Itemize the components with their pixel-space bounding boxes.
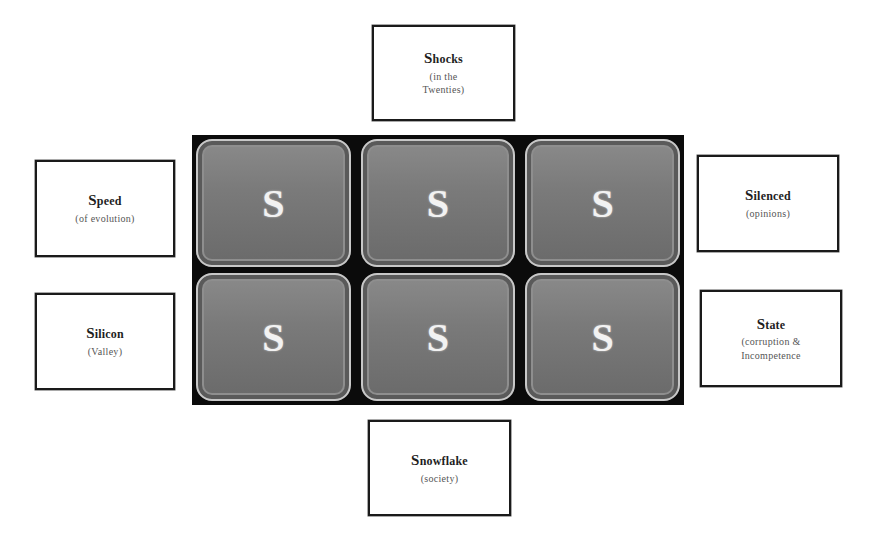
s-tile-3[interactable]: S (525, 139, 680, 267)
label-shocks-sub: (in the Twenties) (423, 70, 465, 97)
label-shocks: Shocks (in the Twenties) (372, 25, 515, 121)
s-tile-6[interactable]: S (525, 273, 680, 401)
label-shocks-title: Shocks (424, 49, 463, 68)
s-tile-4[interactable]: S (196, 273, 351, 401)
s-tile-letter: S (592, 314, 614, 361)
label-silenced-sub: (opinions) (746, 207, 790, 221)
label-speed-title: Speed (88, 191, 121, 210)
s-tile-5[interactable]: S (361, 273, 516, 401)
s-tile-letter: S (262, 180, 284, 227)
label-silicon-sub: (Valley) (88, 345, 123, 359)
label-speed-sub: (of evolution) (75, 212, 134, 226)
label-silicon: Silicon (Valley) (35, 293, 175, 390)
label-state: State (corruption & Incompetence (700, 290, 842, 387)
s-tile-letter: S (427, 314, 449, 361)
s-tile-letter: S (262, 314, 284, 361)
label-silicon-title: Silicon (86, 324, 124, 343)
s-tile-2[interactable]: S (361, 139, 516, 267)
label-silenced-title: Silenced (745, 186, 791, 205)
label-silenced: Silenced (opinions) (697, 155, 839, 252)
s-tile-grid: S S S S S S (192, 135, 684, 405)
label-snowflake-title: Snowflake (411, 451, 468, 470)
s-tile-letter: S (427, 180, 449, 227)
label-speed: Speed (of evolution) (35, 160, 175, 257)
s-tile-letter: S (592, 180, 614, 227)
s-tile-1[interactable]: S (196, 139, 351, 267)
label-state-title: State (757, 315, 786, 334)
label-state-sub: (corruption & Incompetence (741, 335, 801, 362)
label-snowflake-sub: (society) (421, 472, 459, 486)
label-snowflake: Snowflake (society) (368, 420, 511, 516)
